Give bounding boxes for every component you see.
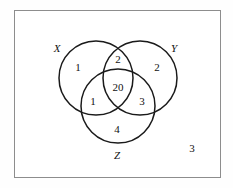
region-count-x-and-z-only: 1 xyxy=(90,96,96,107)
region-count-outside-all: 3 xyxy=(189,143,195,154)
set-z-label: Z xyxy=(114,150,120,161)
venn-diagram-figure: X Y Z 1 2 4 2 1 3 20 3 xyxy=(0,0,233,188)
set-x-circle xyxy=(59,41,133,115)
region-count-y-and-z-only: 3 xyxy=(139,96,145,107)
region-count-y-only: 2 xyxy=(154,62,160,73)
set-x-label: X xyxy=(54,43,61,54)
region-count-x-only: 1 xyxy=(75,62,81,73)
region-count-z-only: 4 xyxy=(114,124,120,135)
region-count-x-and-y-and-z: 20 xyxy=(113,82,124,93)
set-y-label: Y xyxy=(171,43,177,54)
region-count-x-and-y-only: 2 xyxy=(115,54,121,65)
